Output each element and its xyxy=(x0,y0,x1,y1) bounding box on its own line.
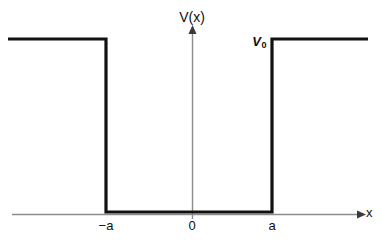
barrier-height-label: V0 xyxy=(252,35,266,48)
barrier-height-subscript: 0 xyxy=(261,40,266,50)
x-tick-label-minus-a: −a xyxy=(99,218,114,233)
x-tick-label-a: a xyxy=(268,218,275,233)
y-axis-arrowhead xyxy=(189,25,197,34)
y-axis-label: V(x) xyxy=(179,10,205,24)
potential-well-figure: V(x) V0 x −a 0 a xyxy=(0,0,382,241)
x-tick-label-origin: 0 xyxy=(188,218,195,233)
x-axis-arrowhead xyxy=(357,211,366,219)
potential-curve xyxy=(8,39,368,212)
potential-well-plot xyxy=(0,0,382,241)
x-axis-label: x xyxy=(366,206,373,219)
barrier-height-symbol: V xyxy=(252,34,261,49)
